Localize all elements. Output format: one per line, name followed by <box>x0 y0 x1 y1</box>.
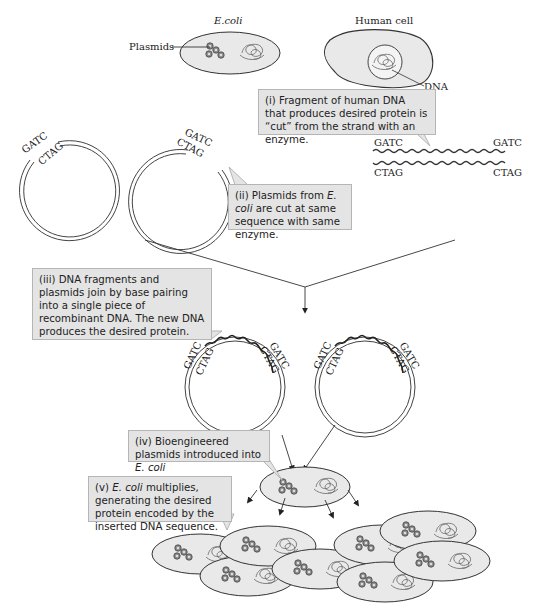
ecoli-label: E.coli <box>214 15 243 26</box>
callout-step-5: (v) E. coli multiplies, generating the d… <box>88 476 232 522</box>
ecoli-cell-top <box>172 32 280 74</box>
seq-ctag-left: CTAG <box>374 167 403 178</box>
step5-text-italic: E. coli <box>112 482 142 493</box>
cut-plasmid-2 <box>129 149 233 253</box>
cut-plasmid-1 <box>19 141 119 241</box>
human-cell-label: Human cell <box>355 15 413 26</box>
step4-text-italic: E. coli <box>135 462 165 473</box>
seq-gatc-right: GATC <box>493 137 522 148</box>
callout-step-1: (i) Fragment of human DNA that produces … <box>258 89 436 135</box>
dna-fragment <box>373 150 505 165</box>
plasmids-label: Plasmids <box>129 41 174 52</box>
step4-text-a: (iv) Bioengineered plasmids introduced i… <box>135 436 261 460</box>
seq-ctag-right: CTAG <box>493 167 522 178</box>
callout-step-2: (ii) Plasmids from E. coli are cut at sa… <box>228 184 352 230</box>
bioengineered-ecoli <box>260 467 350 507</box>
seq-gatc-left: GATC <box>374 137 403 148</box>
callout-step-4: (iv) Bioengineered plasmids introduced i… <box>128 430 270 462</box>
step5-text-a: (v) <box>95 482 112 493</box>
step2-text-a: (ii) Plasmids from <box>235 190 327 201</box>
callout-step-3: (iii) DNA fragments and plasmids join by… <box>32 268 212 340</box>
human-cell <box>325 30 433 88</box>
